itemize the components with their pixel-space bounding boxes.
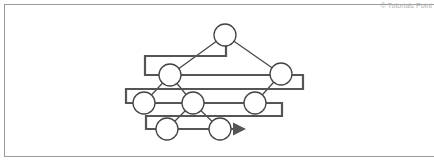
tree-node bbox=[159, 64, 181, 86]
tree-node bbox=[270, 63, 292, 85]
tree-nodes bbox=[133, 24, 292, 140]
tree-node bbox=[133, 92, 155, 114]
tree-node bbox=[156, 118, 178, 140]
tree-node bbox=[214, 24, 236, 46]
tree-node bbox=[182, 92, 204, 114]
tree-node bbox=[244, 92, 266, 114]
tree-node bbox=[209, 118, 231, 140]
